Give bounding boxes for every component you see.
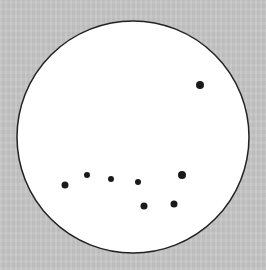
dot-marker [171, 201, 178, 208]
dot-marker [178, 171, 186, 179]
dot-marker [108, 176, 114, 182]
dot-marker [135, 179, 141, 185]
dot-marker [84, 172, 90, 178]
star-field-diagram [0, 0, 266, 270]
diagram-canvas [0, 0, 266, 270]
dot-marker [141, 203, 148, 210]
dot-marker [62, 182, 69, 189]
field-circle [17, 21, 249, 253]
dot-marker [196, 81, 204, 89]
